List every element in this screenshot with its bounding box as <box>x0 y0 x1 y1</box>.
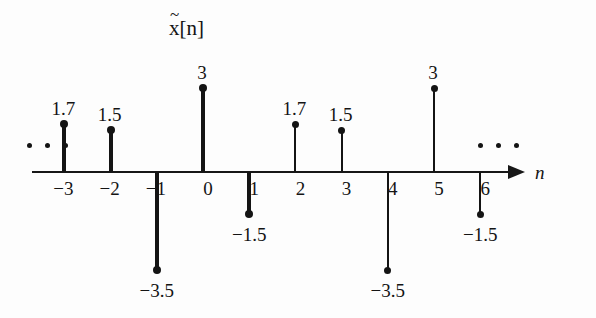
ellipsis-dot <box>496 143 501 148</box>
tick-label-n0: 0 <box>203 179 213 198</box>
stem-dot-n-2 <box>107 126 115 134</box>
tick-label-n6: 6 <box>480 179 490 198</box>
right-ellipsis <box>478 143 519 148</box>
value-label-n-1: −3.5 <box>140 281 174 300</box>
value-label-n-2: 1.5 <box>98 105 122 124</box>
tilde-accent: ~ <box>170 6 179 23</box>
stem-n2 <box>294 124 296 172</box>
stem-n3 <box>341 130 343 172</box>
stem-dot-n6 <box>477 211 484 218</box>
stem-dot-n3 <box>338 127 345 134</box>
stem-dot-n-1 <box>153 266 161 274</box>
tick-label-n-3: −3 <box>53 179 73 198</box>
ellipsis-dot <box>45 143 50 148</box>
stem-dot-n0 <box>199 84 207 92</box>
tick-label-n-1: −1 <box>146 179 166 198</box>
ellipsis-dot <box>478 143 483 148</box>
value-label-n3: 1.5 <box>329 105 353 124</box>
stem-dot-n2 <box>292 121 299 128</box>
stem-dot-n-3 <box>60 120 68 128</box>
stem-dot-n4 <box>384 267 391 274</box>
horizontal-axis <box>32 171 510 173</box>
ellipsis-dot <box>514 143 519 148</box>
value-label-n4: −3.5 <box>371 281 405 300</box>
value-label-n2: 1.7 <box>283 99 307 118</box>
axis-arrowhead-icon <box>508 165 525 179</box>
stem-n5 <box>433 88 435 172</box>
value-label-n1: −1.5 <box>232 225 266 244</box>
tick-label-n2: 2 <box>296 179 306 198</box>
value-label-n0: 3 <box>197 63 207 82</box>
stem-n-2 <box>109 130 113 172</box>
ellipsis-dot <box>27 143 32 148</box>
value-label-n5: 3 <box>428 63 438 82</box>
value-label-n-3: 1.7 <box>52 99 76 118</box>
signal-plot-figure: ~x[n] n 1.7−31.5−2−3.5−130−1.511.721.53−… <box>0 0 596 318</box>
tick-label-n3: 3 <box>342 179 352 198</box>
tick-label-n-2: −2 <box>99 179 119 198</box>
tick-label-n1: 1 <box>249 179 259 198</box>
stem-n-3 <box>62 124 66 172</box>
stem-dot-n5 <box>431 85 438 92</box>
value-label-n6: −1.5 <box>463 225 497 244</box>
tick-label-n4: 4 <box>388 179 398 198</box>
axis-label-n: n <box>535 163 545 182</box>
plot-title: ~x[n] <box>169 18 204 39</box>
stem-n0 <box>201 88 205 172</box>
tick-label-n5: 5 <box>434 179 444 198</box>
stem-dot-n1 <box>245 210 253 218</box>
